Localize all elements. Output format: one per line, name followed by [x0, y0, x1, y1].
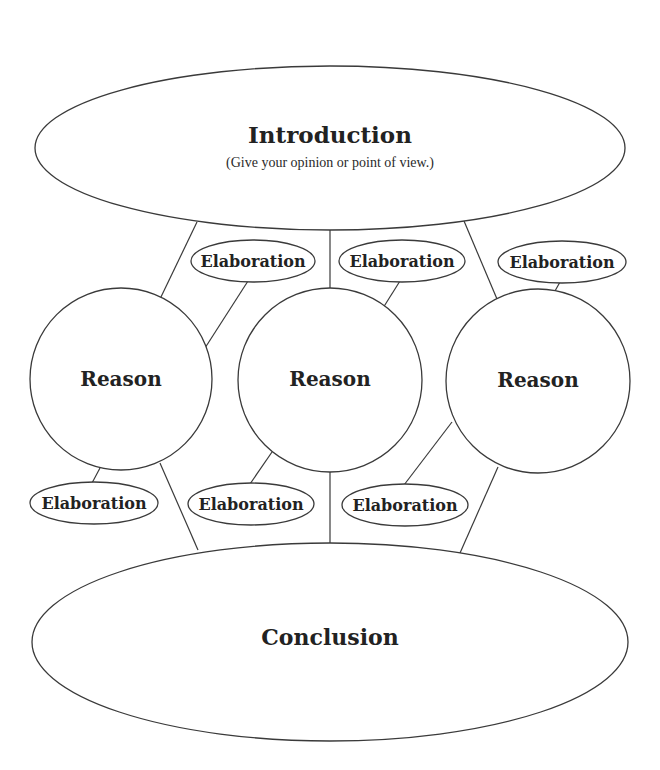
conclusion-title: Conclusion [261, 624, 398, 650]
reason-label: Reason [497, 368, 579, 392]
elaboration-bottom-3: Elaboration [342, 484, 468, 526]
introduction-ellipse [35, 66, 625, 230]
essay-organizer-diagram: Introduction (Give your opinion or point… [0, 0, 660, 770]
connector-intro-reason-3 [464, 221, 497, 299]
elaboration-top-3: Elaboration [498, 241, 626, 283]
elaboration-label: Elaboration [352, 496, 457, 515]
reason-node-3: Reason [446, 289, 630, 473]
connector-elab-bottom-3 [404, 422, 452, 485]
connector-elab-top-2 [383, 281, 400, 308]
conclusion-node: Conclusion [32, 543, 628, 741]
connector-elab-bottom-2 [250, 452, 272, 484]
elaboration-bottom-1: Elaboration [30, 482, 158, 524]
introduction-node: Introduction (Give your opinion or point… [35, 66, 625, 230]
reason-label: Reason [80, 367, 162, 391]
elaboration-label: Elaboration [198, 495, 303, 514]
elaboration-top-2: Elaboration [339, 240, 465, 282]
elaboration-bottom-2: Elaboration [188, 483, 314, 525]
elaboration-label: Elaboration [200, 252, 305, 271]
elaboration-label: Elaboration [41, 494, 146, 513]
introduction-title: Introduction [248, 121, 412, 148]
reason-node-1: Reason [30, 288, 212, 470]
reason-label: Reason [289, 367, 371, 391]
connector-elab-bottom-1 [92, 468, 100, 483]
elaboration-label: Elaboration [349, 252, 454, 271]
reason-node-2: Reason [238, 288, 422, 472]
introduction-subtitle: (Give your opinion or point of view.) [226, 155, 434, 171]
elaboration-top-1: Elaboration [191, 240, 315, 282]
elaboration-label: Elaboration [509, 253, 614, 272]
connector-elab-top-1 [205, 281, 248, 348]
